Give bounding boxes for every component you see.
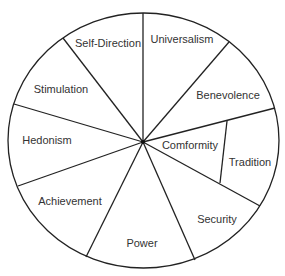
label-stimulation: Stimulation <box>34 83 88 95</box>
label-power: Power <box>126 237 158 249</box>
label-tradition: Tradition <box>229 156 271 168</box>
label-achievement: Achievement <box>38 195 102 207</box>
label-hedonism: Hedonism <box>22 134 72 146</box>
label-conformity: Comformity <box>162 139 219 151</box>
label-benevolence: Benevolence <box>196 89 260 101</box>
label-self-direction: Self-Direction <box>75 37 141 49</box>
schwartz-values-wheel: Self-Direction Universalism Benevolence … <box>0 0 285 276</box>
label-security: Security <box>197 213 237 225</box>
center-point <box>141 140 145 144</box>
label-universalism: Universalism <box>151 33 214 45</box>
